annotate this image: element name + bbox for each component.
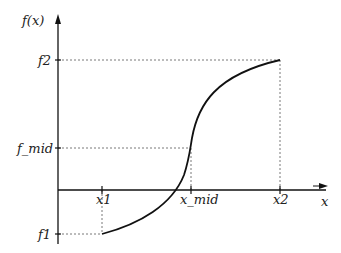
guide-lines — [58, 60, 280, 234]
y-axis-label: f(x) — [21, 13, 44, 28]
ticks — [55, 60, 280, 234]
y-tick-label-f2: f2 — [37, 53, 51, 68]
y-tick-label-f1: f1 — [37, 227, 51, 242]
function-curve — [102, 60, 280, 234]
x-tick-label-x1: x1 — [96, 192, 112, 207]
x-tick-label-xmid: x_mid — [180, 192, 219, 207]
x-axis-arrow-icon — [319, 183, 328, 189]
y-axis-arrow-icon — [55, 14, 61, 24]
x-tick-label-x2: x2 — [273, 192, 289, 207]
function-diagram: f(x) x f2 f_mid f1 x1 x_mid x2 — [0, 0, 341, 253]
x-axis-label: x — [321, 194, 329, 209]
y-tick-label-fmid: f_mid — [16, 141, 53, 156]
